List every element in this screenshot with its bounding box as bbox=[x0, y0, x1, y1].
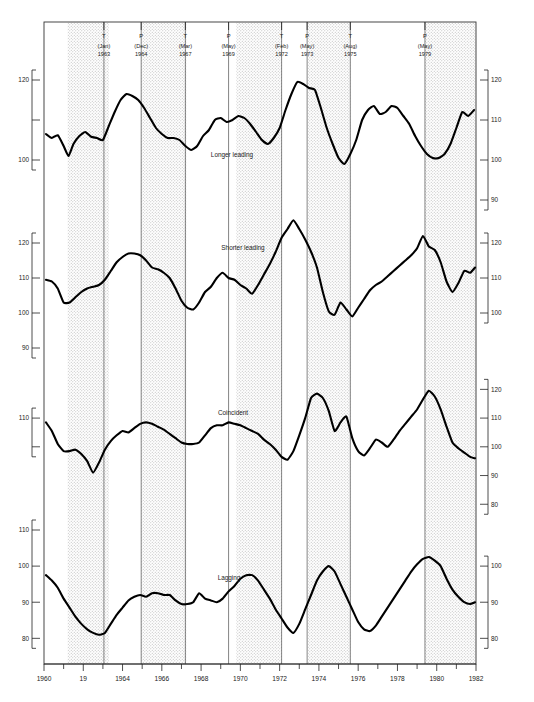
recession-band bbox=[308, 22, 350, 664]
x-axis-tick-label: 1960 bbox=[37, 675, 52, 682]
right-axis-tick-label: 110 bbox=[491, 274, 502, 281]
left-axis-tick-label: 100 bbox=[18, 309, 29, 316]
panel-label-lagging: Lagging bbox=[218, 574, 241, 582]
left-axis-tick-label: 110 bbox=[19, 526, 30, 533]
x-axis-tick-label: 1978 bbox=[390, 675, 405, 682]
x-axis-tick-label: 1976 bbox=[351, 675, 366, 682]
left-axis-bracket bbox=[32, 233, 36, 358]
turning-point-month: (Jan) bbox=[98, 43, 111, 49]
turning-point-year: 1963 bbox=[98, 51, 110, 57]
left-axis-bracket bbox=[32, 408, 36, 457]
panel-label-longer-leading: Longer leading bbox=[211, 151, 254, 159]
right-axis-tick-label: 90 bbox=[491, 472, 499, 479]
turning-point-type: P bbox=[139, 33, 143, 39]
right-axis-tick-label: 80 bbox=[491, 635, 499, 642]
right-axis-bracket bbox=[484, 70, 488, 210]
right-axis-tick-label: 90 bbox=[491, 196, 499, 203]
turning-point-year: 1967 bbox=[179, 51, 191, 57]
left-axis-tick-label: 80 bbox=[22, 635, 30, 642]
turning-point-type: P bbox=[227, 33, 231, 39]
turning-point-month: (May) bbox=[221, 43, 235, 49]
turning-point-month: (May) bbox=[418, 43, 432, 49]
right-axis-tick-label: 120 bbox=[491, 239, 502, 246]
turning-point-year: 1964 bbox=[135, 51, 147, 57]
x-axis-tick-label: 1982 bbox=[469, 675, 484, 682]
panel-label-coincident: Coincident bbox=[218, 409, 248, 416]
x-axis-tick-label: 1970 bbox=[233, 675, 248, 682]
right-axis-tick-label: 100 bbox=[491, 443, 502, 450]
left-axis-bracket bbox=[32, 520, 36, 648]
chart-canvas: T(Jan)1963P(Dec)1964T(Mar)1967P(May)1969… bbox=[0, 0, 534, 702]
right-axis-tick-label: 100 bbox=[491, 156, 502, 163]
right-axis-tick-label: 110 bbox=[491, 116, 502, 123]
left-axis-tick-label: 120 bbox=[18, 239, 29, 246]
left-axis-tick-label: 100 bbox=[18, 156, 29, 163]
left-axis-tick-label: 90 bbox=[22, 344, 30, 351]
turning-point-type: T bbox=[102, 33, 106, 39]
right-axis-tick-label: 90 bbox=[491, 599, 499, 606]
x-axis-tick-label: 1974 bbox=[312, 675, 327, 682]
x-axis-tick-label: 1968 bbox=[194, 675, 209, 682]
recession-band bbox=[425, 22, 476, 664]
right-axis-tick-label: 110 bbox=[491, 414, 502, 421]
business-cycle-indicator-chart: T(Jan)1963P(Dec)1964T(Mar)1967P(May)1969… bbox=[0, 0, 534, 702]
left-axis-tick-label: 110 bbox=[19, 414, 30, 421]
right-axis-tick-label: 100 bbox=[491, 562, 502, 569]
turning-point-year: 1969 bbox=[222, 51, 234, 57]
panel-label-shorter-leading: Shorter leading bbox=[221, 244, 265, 252]
turning-point-year: 1979 bbox=[419, 51, 431, 57]
turning-point-type: T bbox=[349, 33, 353, 39]
left-axis-tick-label: 100 bbox=[18, 562, 29, 569]
recession-band bbox=[68, 22, 109, 664]
turning-point-month: (Aug) bbox=[343, 43, 357, 49]
right-axis-tick-label: 120 bbox=[491, 76, 502, 83]
x-axis-tick-label: 1972 bbox=[272, 675, 287, 682]
right-axis-tick-label: 80 bbox=[491, 501, 499, 508]
recession-band bbox=[141, 22, 186, 664]
x-axis-tick-label: 1966 bbox=[154, 675, 169, 682]
x-axis-tick-label: 1980 bbox=[429, 675, 444, 682]
turning-point-type: T bbox=[280, 33, 284, 39]
turning-point-type: P bbox=[305, 33, 309, 39]
x-axis: 1960191964196619681970197219741976197819… bbox=[37, 664, 484, 682]
turning-point-year: 1973 bbox=[301, 51, 313, 57]
turning-point-type: P bbox=[423, 33, 427, 39]
left-axis-tick-label: 90 bbox=[22, 599, 30, 606]
turning-point-year: 1972 bbox=[275, 51, 287, 57]
turning-point-month: (Feb) bbox=[275, 43, 289, 49]
turning-point-month: (May) bbox=[300, 43, 314, 49]
x-axis-tick-label: 19 bbox=[80, 675, 88, 682]
left-axis-tick-label: 110 bbox=[19, 274, 30, 281]
right-axis-tick-label: 120 bbox=[491, 386, 502, 393]
turning-point-year: 1975 bbox=[344, 51, 356, 57]
right-axis-tick-label: 100 bbox=[491, 309, 502, 316]
turning-point-month: (Mar) bbox=[179, 43, 192, 49]
x-axis-tick-label: 1964 bbox=[115, 675, 130, 682]
left-axis-tick-label: 120 bbox=[18, 76, 29, 83]
turning-point-type: T bbox=[184, 33, 188, 39]
turning-point-month: (Dec) bbox=[134, 43, 148, 49]
